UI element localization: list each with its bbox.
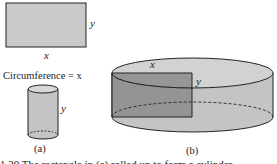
rect-a-height-label: y bbox=[89, 17, 95, 29]
caption-b: (b) bbox=[186, 145, 199, 157]
rectangle-b bbox=[112, 73, 193, 117]
rect-a-width-label: x bbox=[43, 49, 49, 61]
figure-canvas: y x Circumference = x y (a) bbox=[0, 0, 277, 164]
rectangle-a bbox=[6, 3, 86, 47]
panel-a: y x Circumference = x y (a) bbox=[3, 3, 95, 155]
figure-caption: 1.30 The rectangle in (a) rolled up to f… bbox=[0, 158, 233, 164]
caption-a: (a) bbox=[34, 143, 46, 155]
circumference-label: Circumference = x bbox=[3, 70, 83, 81]
cylinder-a-height-label: y bbox=[60, 102, 66, 114]
cylinder-a bbox=[28, 85, 58, 139]
rect-b-height-label: y bbox=[195, 75, 201, 87]
rect-b-width-label: x bbox=[149, 58, 155, 70]
panel-b: x y (b) bbox=[112, 58, 273, 157]
